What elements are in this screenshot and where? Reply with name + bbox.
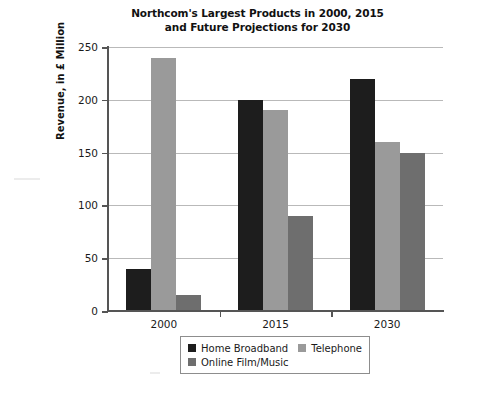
bar xyxy=(151,58,176,311)
bar xyxy=(288,216,313,311)
y-tick-label: 150 xyxy=(64,148,98,158)
legend-row: Home Broadband Telephone xyxy=(188,341,362,355)
y-axis-title: Revenue, in £ Million xyxy=(55,0,69,140)
gridline xyxy=(108,47,443,48)
y-tick-label-wrap: 200 xyxy=(62,95,98,105)
scan-artifact xyxy=(14,178,40,180)
scan-artifact xyxy=(150,372,160,374)
legend-label: Telephone xyxy=(311,343,362,354)
y-tick-label: 200 xyxy=(64,95,98,105)
bar-chart-figure: Northcom's Largest Products in 2000, 201… xyxy=(0,0,477,396)
y-tick-label: 250 xyxy=(64,42,98,52)
bar xyxy=(263,110,288,311)
x-tick-mark xyxy=(331,311,333,317)
x-tick-label: 2015 xyxy=(236,318,316,330)
chart-title-line-1: Northcom's Largest Products in 2000, 201… xyxy=(60,6,455,20)
bar xyxy=(238,100,263,311)
x-tick-label: 2030 xyxy=(347,318,427,330)
y-tick-label-wrap: 50 xyxy=(62,253,98,263)
chart-legend: Home Broadband Telephone Online Film/Mus… xyxy=(180,336,370,374)
legend-swatch-icon xyxy=(298,344,306,352)
y-tick-label-wrap: 0 xyxy=(62,306,98,316)
legend-swatch-icon xyxy=(188,358,196,366)
bar xyxy=(375,142,400,311)
x-tick-label: 2000 xyxy=(124,318,204,330)
x-axis-line xyxy=(107,310,444,312)
legend-swatch-icon xyxy=(188,344,196,352)
y-tick-label-wrap: 150 xyxy=(62,148,98,158)
legend-entry-home-broadband: Home Broadband xyxy=(188,343,288,354)
y-tick-label: 50 xyxy=(64,253,98,263)
legend-label: Online Film/Music xyxy=(201,357,289,368)
chart-title: Northcom's Largest Products in 2000, 201… xyxy=(60,6,455,34)
plot-area xyxy=(108,47,443,311)
y-axis-line xyxy=(107,46,109,312)
chart-title-line-2: and Future Projections for 2030 xyxy=(60,20,455,34)
legend-label: Home Broadband xyxy=(201,343,288,354)
y-tick-label-wrap: 250 xyxy=(62,42,98,52)
bar xyxy=(350,79,375,311)
legend-entry-telephone: Telephone xyxy=(298,343,362,354)
bar xyxy=(176,295,201,311)
legend-row: Online Film/Music xyxy=(188,355,362,369)
legend-entry-online-film-music: Online Film/Music xyxy=(188,357,289,368)
bar xyxy=(126,269,151,311)
y-tick-label: 100 xyxy=(64,200,98,210)
y-tick-label-wrap: 100 xyxy=(62,200,98,210)
bar xyxy=(400,153,425,311)
x-tick-mark xyxy=(220,311,222,317)
y-tick-label: 0 xyxy=(64,306,98,316)
